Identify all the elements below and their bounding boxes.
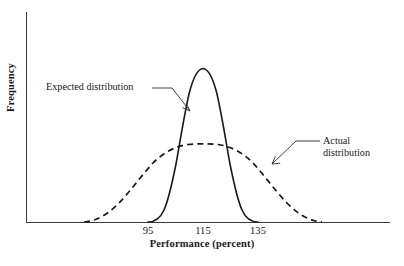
- distribution-chart-figure: 95 115 135 Performance (percent) Frequen…: [0, 0, 404, 266]
- x-tick-label-95: 95: [143, 225, 154, 236]
- annotation-actual-line-2: distribution: [323, 147, 370, 159]
- x-axis-title: Performance (percent): [150, 238, 255, 249]
- y-axis-title-text: Frequency: [5, 51, 16, 125]
- expected-leader-line: [152, 88, 190, 111]
- annotation-expected-distribution: Expected distribution: [46, 81, 133, 93]
- curve-expected-distribution: [148, 69, 258, 223]
- x-tick-label-115: 115: [195, 225, 211, 236]
- curve-actual-distribution: [84, 144, 322, 222]
- y-axis-title: Frequency: [5, 81, 16, 95]
- annotation-actual-line-1: Actual: [323, 135, 350, 146]
- annotation-actual-distribution: Actual distribution: [323, 135, 370, 158]
- actual-leader-line: [272, 141, 320, 164]
- x-tick-label-135: 135: [250, 225, 266, 236]
